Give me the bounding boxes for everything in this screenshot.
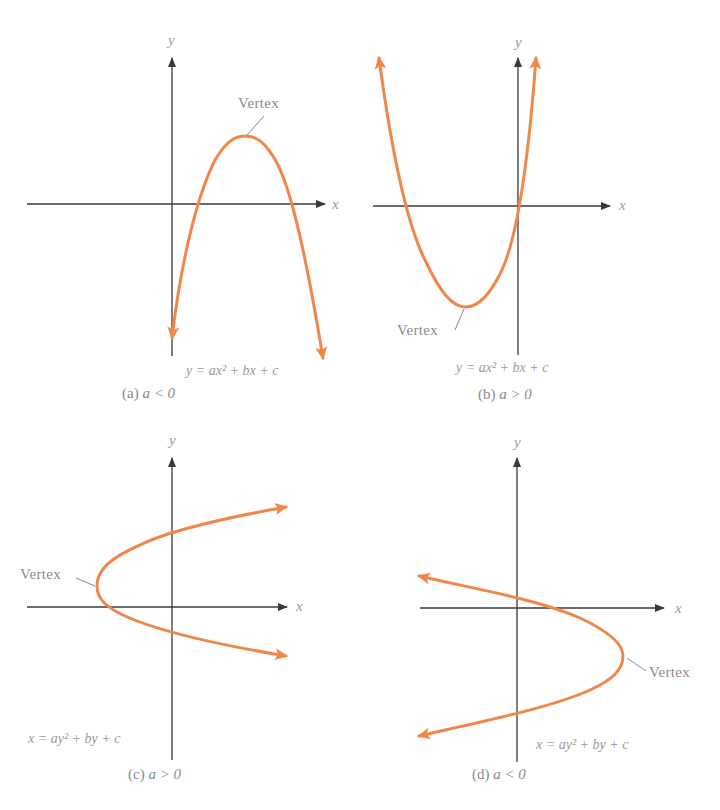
- y-axis-label: y: [168, 32, 175, 49]
- panel-c: [27, 458, 287, 760]
- parabola-curve: [419, 576, 623, 736]
- caption: (c) a > 0: [128, 766, 181, 783]
- caption-condition: a < 0: [493, 766, 526, 782]
- caption-condition: a > 0: [499, 386, 532, 402]
- vertex-leader-line: [455, 309, 464, 330]
- caption-letter: (c): [128, 766, 145, 782]
- caption-condition: a < 0: [142, 385, 175, 401]
- x-axis-label: x: [675, 600, 682, 617]
- y-axis-label: y: [515, 34, 522, 51]
- panel-d: [419, 458, 664, 762]
- vertex-label: Vertex: [238, 95, 279, 112]
- y-axis-label: y: [169, 432, 176, 449]
- caption-letter: (a): [122, 385, 139, 401]
- parabola-curve: [97, 507, 286, 656]
- vertex-label: Vertex: [397, 322, 438, 339]
- caption-condition: a > 0: [148, 766, 181, 782]
- vertex-leader-line: [76, 578, 95, 586]
- equation-label: x = ay² + by + c: [28, 731, 120, 747]
- caption: (b) a > 0: [478, 386, 532, 403]
- equation-label: y = ax² + bx + c: [456, 360, 548, 376]
- equation-label: x = ay² + by + c: [536, 737, 628, 753]
- vertex-label: Vertex: [20, 566, 61, 583]
- caption: (a) a < 0: [122, 385, 175, 402]
- caption: (d) a < 0: [472, 766, 526, 783]
- vertex-label: Vertex: [649, 664, 690, 681]
- vertex-leader-line: [627, 658, 646, 671]
- caption-letter: (b): [478, 386, 496, 402]
- x-axis-label: x: [619, 197, 626, 214]
- x-axis-label: x: [296, 598, 303, 615]
- parabola-curve: [172, 136, 323, 358]
- panel-a: [27, 58, 325, 358]
- caption-letter: (d): [472, 766, 490, 782]
- parabola-figure: [0, 0, 720, 810]
- vertex-leader-line: [247, 116, 264, 135]
- x-axis-label: x: [332, 196, 339, 213]
- equation-label: y = ax² + bx + c: [186, 363, 278, 379]
- y-axis-label: y: [514, 434, 521, 451]
- parabola-curve: [379, 58, 536, 307]
- panel-b: [373, 58, 610, 355]
